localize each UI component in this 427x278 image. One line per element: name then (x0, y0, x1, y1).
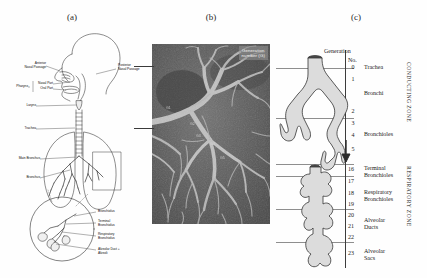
panel-a-respiratory-tract-diagram: Anterior Nasal Passage Posterior Nasal P… (0, 24, 148, 274)
label-anterior-nasal-passage: Anterior Nasal Passage (2, 62, 46, 70)
gen-num-3: 3 (346, 120, 360, 126)
label-main-bronchus: Main Bronchus (2, 157, 40, 161)
label-oral-part: Oral Part (29, 87, 53, 91)
group-label-respiratory-bronchioles: Respiratory Bronchioles (364, 189, 393, 203)
panel-a-caption: (a) (60, 12, 84, 22)
g-mark-1: G1 (166, 106, 171, 110)
right-lung-outline (83, 132, 116, 209)
g-mark-4: G4 (210, 142, 215, 146)
label-trachea: Trachea (2, 127, 36, 131)
gen-num-18: 18 (344, 190, 358, 196)
gen-num-22: 22 (344, 234, 358, 240)
gen-num-17: 17 (344, 178, 358, 184)
label-alveolar-duct-alveoli: Alveolar Duct + Alveoli (98, 248, 146, 256)
gen-num-20: 20 (344, 212, 358, 218)
generation-header-line2: No. (348, 57, 357, 63)
g-mark-5: G5 (220, 156, 225, 160)
figure-root: (a) (b) (c) (0, 0, 427, 278)
zone-label-conducting: CONDUCTING ZONE (406, 62, 412, 122)
zone-label-respiratory: RESPIRATORY ZONE (406, 166, 412, 227)
face-profile (55, 68, 70, 101)
inset-circle (30, 197, 94, 261)
group-label-terminal-bronchioles: Terminal Bronchioles (364, 165, 393, 179)
gen-num-2: 2 (346, 108, 360, 114)
g-mark-2: G2 (190, 122, 195, 126)
nasal-cavity (60, 72, 74, 82)
gen-num-1: 1 (346, 76, 360, 82)
label-terminal-bronchiolus: Terminal Bronchiolus (98, 220, 144, 228)
pharynx-posterior-wall (80, 74, 85, 101)
panel-c-airway-generation-schematic: Generation No. 0 1 2 3 4 5 16 17 18 19 2… (276, 24, 427, 276)
connector-bottom (134, 128, 154, 129)
skull-outline (72, 34, 120, 94)
gen-num-19: 19 (344, 201, 358, 207)
panel-c-caption: (c) (344, 12, 368, 22)
panel-b-caption: (b) (199, 12, 223, 22)
gen-num-21: 21 (344, 223, 358, 229)
label-pharynx: Pharynx (2, 85, 28, 89)
group-label-trachea: Trachea (364, 64, 383, 71)
bronchial-cast-image (152, 44, 270, 224)
generation-number-badge: Generation number (G) (239, 46, 268, 60)
gen-num-5: 5 (346, 146, 360, 152)
gen-num-4: 4 (346, 132, 360, 138)
trachea-rings (76, 113, 82, 153)
nasal-turbinate-1 (62, 75, 70, 77)
skipped-generations-arrow (336, 140, 356, 164)
left-lung-outline (44, 132, 75, 207)
label-bronchus: Bronchus (2, 176, 40, 180)
generation-header-line1: Generation (324, 48, 351, 54)
group-label-alveolar-sacs: Alveolar Sacs (364, 248, 385, 262)
tongue (65, 89, 77, 90)
group-label-alveolar-ducts: Alveolar Ducts (364, 217, 385, 231)
forehead-curve (62, 54, 72, 81)
connector-top (134, 66, 154, 67)
bronchial-tree (49, 156, 103, 199)
inset-terminal-unit (44, 214, 76, 242)
inset-alveolar-clusters (38, 233, 70, 251)
label-larynx: Larynx (2, 104, 36, 108)
group-label-bronchi: Bronchi (364, 90, 383, 97)
g-mark-3: G3 (196, 134, 201, 138)
gen-num-23: 23 (344, 250, 358, 256)
larynx-outline (76, 101, 82, 110)
group-label-bronchioles: Bronchioles (364, 131, 393, 138)
label-bronchiolus: Bronchiolus (98, 210, 144, 214)
label-respiratory-bronchiolus: Respiratory Bronchiolus (98, 233, 144, 241)
gen-num-0: 0 (346, 64, 360, 70)
respiratory-zone-tree (300, 167, 333, 267)
panel-b-bronchial-cast-micrograph: Generation number (G) G1 G2 G3 G4 G5 (152, 44, 270, 224)
gen-num-16: 16 (344, 166, 358, 172)
